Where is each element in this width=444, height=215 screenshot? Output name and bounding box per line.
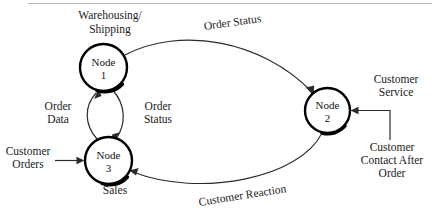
arrowhead-customer-contact [351, 107, 359, 114]
edge-order-status-top [125, 40, 312, 92]
edge-label-order-data-line-2: Data [47, 113, 69, 125]
node-1[interactable]: Node 1 [80, 44, 127, 92]
node-3[interactable]: Node 3 [85, 137, 132, 185]
external-customer-orders-line-1: Customer [6, 145, 51, 157]
node-3-number: 3 [106, 162, 112, 174]
node-network-diagram: Node 1 Node 2 Node 3 Warehousing/ Shippi… [0, 0, 444, 215]
edge-order-data-left [87, 93, 97, 140]
node-2-name: Node [316, 99, 340, 111]
node-2-role-line-1: Customer [374, 73, 419, 85]
arrowhead-customer-orders [77, 157, 85, 164]
node-1-name: Node [92, 56, 116, 68]
edge-label-order-status-line-1: Order [145, 100, 172, 112]
node-3-role-label: Sales [103, 184, 128, 196]
diagram-canvas: Node 1 Node 2 Node 3 Warehousing/ Shippi… [0, 0, 444, 215]
node-2-number: 2 [325, 112, 331, 124]
node-1-role-line-2: Shipping [89, 23, 131, 36]
node-2[interactable]: Node 2 [305, 88, 350, 134]
node-1-number: 1 [101, 69, 107, 81]
external-customer-contact-line-2: Contact After [361, 154, 423, 166]
node-3-name: Node [97, 149, 121, 161]
node-2-role-line-2: Service [379, 86, 413, 98]
external-customer-orders-line-2: Orders [12, 158, 44, 170]
edge-label-customer-reaction: Customer Reaction [198, 182, 288, 208]
node-1-role-line-1: Warehousing/ [78, 9, 142, 22]
edge-customer-reaction-bottom [133, 133, 322, 184]
edge-label-order-data-line-1: Order [45, 100, 72, 112]
edge-label-order-status-line-2: Status [144, 113, 173, 125]
external-customer-contact-line-3: Order [379, 167, 406, 179]
edge-label-order-status-top: Order Status [203, 12, 262, 32]
external-customer-contact-line-1: Customer [370, 141, 415, 153]
edge-customer-contact [355, 111, 390, 141]
edge-order-status-right [113, 91, 123, 139]
